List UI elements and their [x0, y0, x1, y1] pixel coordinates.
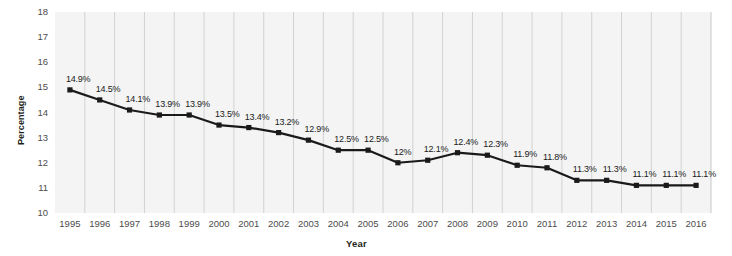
x-tick-label: 2005	[352, 218, 384, 229]
x-tick-label: 2004	[322, 218, 354, 229]
data-point-marker	[395, 160, 400, 165]
y-tick-label: 15	[24, 81, 48, 92]
data-point-label: 11.3%	[573, 164, 597, 174]
y-tick-label: 17	[24, 31, 48, 42]
data-point-marker	[544, 165, 549, 170]
x-tick-label: 2001	[233, 218, 265, 229]
data-point-label: 13.2%	[275, 117, 300, 127]
x-tick-label: 2012	[561, 218, 593, 229]
x-tick-label: 2009	[471, 218, 503, 229]
data-point-label: 11.1%	[632, 169, 656, 179]
data-point-marker	[693, 183, 698, 188]
data-point-marker	[634, 183, 639, 188]
x-tick-label: 2006	[382, 218, 414, 229]
data-point-label: 12.9%	[304, 124, 329, 134]
x-tick-label: 2007	[412, 218, 444, 229]
x-tick-label: 2000	[203, 218, 235, 229]
data-point-label: 11.9%	[513, 149, 537, 159]
data-point-marker	[276, 130, 281, 135]
data-point-marker	[246, 125, 251, 130]
x-tick-label: 2003	[292, 218, 324, 229]
data-point-label: 12%	[394, 147, 411, 157]
y-tick-label: 16	[24, 56, 48, 67]
x-tick-label: 1998	[143, 218, 175, 229]
data-point-marker	[187, 112, 192, 117]
data-point-marker	[604, 178, 609, 183]
data-point-label: 13.5%	[215, 109, 240, 119]
data-point-marker	[485, 153, 490, 158]
x-tick-label: 2016	[680, 218, 712, 229]
x-tick-label: 1997	[114, 218, 146, 229]
data-point-marker	[157, 112, 162, 117]
y-tick-label: 11	[24, 182, 48, 193]
data-point-label: 14.5%	[96, 84, 121, 94]
data-point-label: 13.9%	[185, 99, 210, 109]
data-point-marker	[67, 87, 72, 92]
x-tick-label: 1996	[84, 218, 116, 229]
x-tick-label: 1995	[54, 218, 86, 229]
x-axis-title: Year	[346, 238, 367, 249]
y-tick-label: 13	[24, 132, 48, 143]
data-point-label: 11.8%	[543, 152, 567, 162]
data-point-marker	[455, 150, 460, 155]
data-point-label: 11.3%	[603, 164, 627, 174]
data-point-marker	[97, 97, 102, 102]
data-point-marker	[425, 158, 430, 163]
data-point-label: 12.1%	[424, 144, 449, 154]
data-point-label: 14.9%	[66, 74, 91, 84]
x-tick-label: 2008	[442, 218, 474, 229]
data-point-marker	[216, 122, 221, 127]
data-point-label: 12.3%	[483, 139, 508, 149]
data-point-marker	[336, 148, 341, 153]
data-point-marker	[306, 138, 311, 143]
x-tick-label: 2011	[531, 218, 563, 229]
y-tick-label: 18	[24, 6, 48, 17]
y-tick-label: 14	[24, 107, 48, 118]
y-tick-label: 10	[24, 207, 48, 218]
x-tick-label: 2013	[591, 218, 623, 229]
data-point-marker	[127, 107, 132, 112]
y-tick-label: 12	[24, 157, 48, 168]
data-point-marker	[365, 148, 370, 153]
data-point-marker	[515, 163, 520, 168]
x-tick-label: 2010	[501, 218, 533, 229]
data-point-label: 13.9%	[155, 99, 180, 109]
data-point-label: 14.1%	[126, 94, 151, 104]
data-point-label: 12.5%	[364, 134, 389, 144]
data-point-label: 11.1%	[662, 169, 686, 179]
data-point-label: 11.1%	[692, 169, 716, 179]
data-point-marker	[574, 178, 579, 183]
data-point-label: 13.4%	[245, 112, 270, 122]
x-tick-label: 2015	[650, 218, 682, 229]
data-point-marker	[664, 183, 669, 188]
x-tick-label: 2014	[620, 218, 652, 229]
data-point-label: 12.4%	[454, 137, 479, 147]
data-point-label: 12.5%	[334, 134, 359, 144]
x-tick-label: 2002	[263, 218, 295, 229]
line-chart: Percentage 181716151413121110 1995199619…	[0, 0, 732, 256]
x-tick-label: 1999	[173, 218, 205, 229]
